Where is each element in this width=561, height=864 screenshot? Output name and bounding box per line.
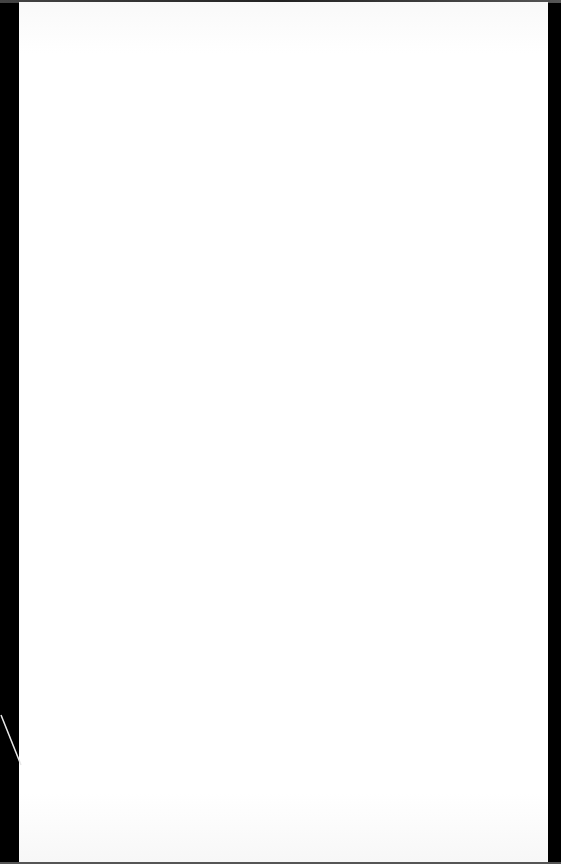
blank-paper-page bbox=[19, 2, 548, 862]
paper-edge-line-icon bbox=[0, 710, 24, 770]
